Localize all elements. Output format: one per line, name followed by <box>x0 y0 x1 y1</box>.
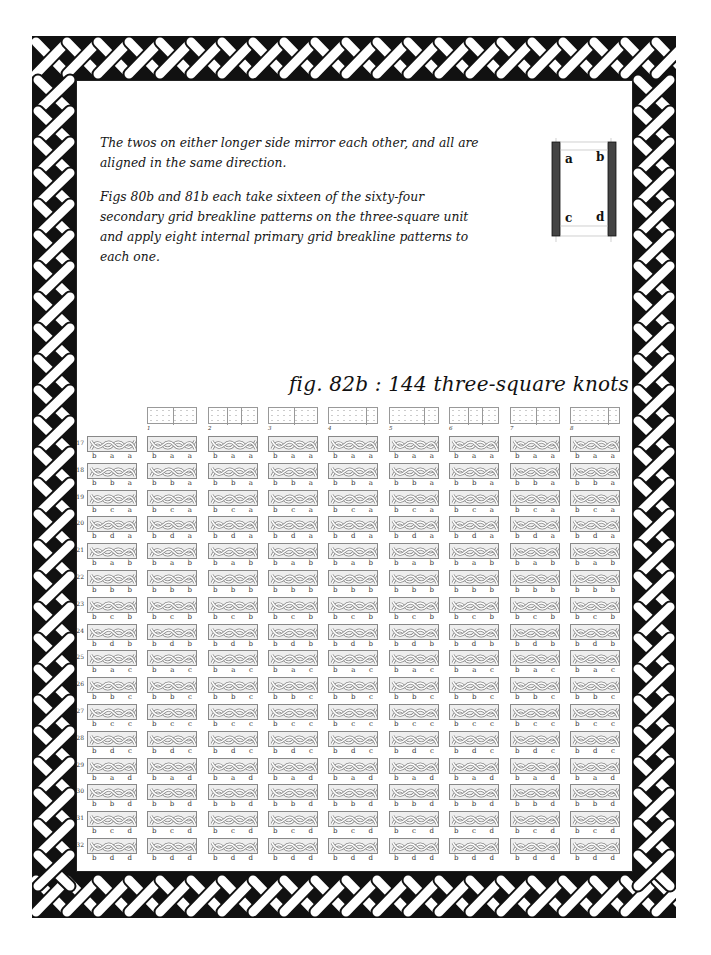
knot-label: b c d <box>208 827 258 835</box>
knot-pattern-icon <box>450 491 499 506</box>
letter-1: b <box>92 586 96 594</box>
knot-label: b b a <box>268 479 318 487</box>
knot-pattern-icon <box>450 651 499 666</box>
knot-cell <box>449 543 499 559</box>
knot-cell <box>208 463 258 479</box>
row-number: 18 <box>74 466 84 473</box>
letter-1: b <box>92 827 96 835</box>
knot-pattern-icon <box>511 464 560 479</box>
letter-1: b <box>273 613 277 621</box>
knot-cell <box>208 543 258 559</box>
letter-3: c <box>611 720 615 728</box>
knot-label: b d b <box>449 640 499 648</box>
knot-pattern-icon <box>511 785 560 800</box>
letter-2: c <box>533 613 537 621</box>
knot-pattern-icon <box>88 812 137 827</box>
letter-1: b <box>213 827 217 835</box>
letter-3: d <box>611 827 615 835</box>
knot-pattern-icon <box>571 571 620 586</box>
letter-1: b <box>213 747 217 755</box>
breakline-mark <box>608 408 609 425</box>
letter-1: b <box>273 506 277 514</box>
knot-pattern-icon <box>390 759 439 774</box>
knot-cell <box>328 436 378 452</box>
knot-label: b c d <box>449 827 499 835</box>
letter-1: b <box>92 452 96 460</box>
knot-cell <box>268 704 318 720</box>
knot-label: b b d <box>389 800 439 808</box>
letter-1: b <box>333 559 337 567</box>
knot-label: b a b <box>268 559 318 567</box>
letter-3: c <box>551 693 555 701</box>
knot-label: b b b <box>87 586 137 594</box>
letter-2: d <box>170 640 174 648</box>
knot-label: b b c <box>570 693 620 701</box>
knot-cell <box>147 436 197 452</box>
knot-label: b a a <box>510 452 560 460</box>
knot-pattern-icon <box>88 491 137 506</box>
knot-pattern-icon <box>390 785 439 800</box>
knot-pattern-icon <box>269 651 318 666</box>
knot-cell <box>510 731 560 747</box>
letter-3: c <box>188 720 192 728</box>
letter-1: b <box>92 613 96 621</box>
letter-1: b <box>213 479 217 487</box>
row-number: 19 <box>74 493 84 500</box>
letter-2: b <box>533 693 537 701</box>
letter-3: b <box>309 613 313 621</box>
knot-cell <box>328 543 378 559</box>
letter-3: d <box>490 774 494 782</box>
letter-3: a <box>128 479 132 487</box>
row-number: 32 <box>74 841 84 848</box>
knot-cell <box>87 758 137 774</box>
letter-3: b <box>369 559 373 567</box>
letter-3: c <box>490 693 494 701</box>
row-number: 25 <box>74 653 84 660</box>
letter-2: a <box>110 774 114 782</box>
letter-2: b <box>351 586 355 594</box>
knot-pattern-icon <box>511 491 560 506</box>
corner-label-c: c <box>565 211 572 225</box>
knot-cell <box>147 490 197 506</box>
knot-label: b a d <box>87 774 137 782</box>
letter-2: a <box>593 774 597 782</box>
letter-3: d <box>249 800 253 808</box>
knot-pattern-icon <box>88 598 137 613</box>
knot-cell <box>328 650 378 666</box>
letter-2: d <box>533 532 537 540</box>
knot-pattern-icon <box>390 812 439 827</box>
letter-2: a <box>351 774 355 782</box>
knot-pattern-icon <box>209 517 258 532</box>
letter-2: b <box>110 586 114 594</box>
letter-3: b <box>490 586 494 594</box>
knot-label: b a a <box>208 452 258 460</box>
knot-cell <box>147 731 197 747</box>
knot-pattern-icon <box>450 812 499 827</box>
letter-3: b <box>188 613 192 621</box>
knot-label: b b a <box>570 479 620 487</box>
knot-cell <box>208 624 258 640</box>
letter-1: b <box>213 720 217 728</box>
letter-2: a <box>472 774 476 782</box>
letter-2: b <box>472 693 476 701</box>
letter-1: b <box>152 640 156 648</box>
knot-pattern-icon <box>511 598 560 613</box>
knot-cell <box>87 543 137 559</box>
knot-label: b d c <box>510 747 560 755</box>
letter-1: b <box>454 640 458 648</box>
knot-label: b d a <box>449 532 499 540</box>
letter-3: c <box>128 720 132 728</box>
knot-cell <box>268 650 318 666</box>
knot-cell <box>570 758 620 774</box>
knot-label: b a a <box>570 452 620 460</box>
letter-2: c <box>472 506 476 514</box>
knot-cell <box>570 624 620 640</box>
knot-pattern-icon <box>450 598 499 613</box>
knot-label: b a d <box>147 774 197 782</box>
letter-1: b <box>575 827 579 835</box>
letter-3: d <box>128 854 132 862</box>
knot-pattern-icon <box>209 812 258 827</box>
knot-label: b c a <box>389 506 439 514</box>
letter-3: b <box>430 613 434 621</box>
knot-label: b c c <box>208 720 258 728</box>
